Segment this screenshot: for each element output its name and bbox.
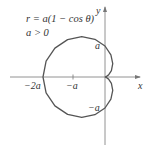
x-axis-arrow-icon [135, 75, 141, 79]
tick-label-a-y: a [95, 41, 100, 51]
cardioid-diagram: r = a(1 − cos θ) a > 0 y x −2a −a a −a [0, 0, 152, 150]
tick-label-neg-a-x: −a [66, 81, 78, 91]
y-axis-arrow-icon [103, 6, 107, 12]
equation-line-1: r = a(1 − cos θ) [26, 14, 94, 25]
equation-line-2: a > 0 [26, 28, 49, 39]
x-axis-label: x [138, 81, 142, 91]
tick-label-neg-2a: −2a [24, 81, 41, 91]
tick-label-neg-a-y: −a [88, 103, 100, 113]
y-axis-label: y [96, 6, 100, 16]
